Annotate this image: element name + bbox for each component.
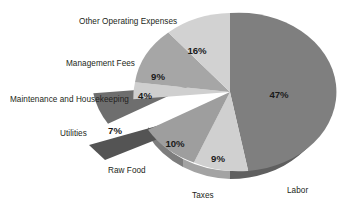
- value-label-maintenance-housekeeping: 4%: [138, 90, 152, 101]
- category-label-maintenance-housekeeping: Maintenance and Housekeeping: [10, 95, 129, 104]
- value-label-management-fees: 9%: [151, 71, 165, 82]
- category-label-raw-food: Raw Food: [108, 166, 146, 175]
- pie-chart-canvas: 47% 16% 9% 4% 7% 10% 9% Other Operating …: [0, 0, 338, 210]
- value-label-taxes: 9%: [211, 153, 225, 164]
- category-label-taxes: Taxes: [192, 191, 214, 200]
- value-label-labor: 47%: [269, 89, 289, 100]
- category-label-other-operating-expenses: Other Operating Expenses: [79, 17, 177, 26]
- value-label-other-operating-expenses: 16%: [187, 45, 207, 56]
- category-label-utilities: Utilities: [60, 129, 87, 138]
- category-label-management-fees: Management Fees: [66, 59, 135, 68]
- pie-chart: 47% 16% 9% 4% 7% 10% 9% Other Operating …: [0, 0, 338, 210]
- value-label-raw-food: 10%: [165, 138, 185, 149]
- category-label-labor: Labor: [287, 186, 308, 195]
- value-label-utilities: 7%: [108, 125, 122, 136]
